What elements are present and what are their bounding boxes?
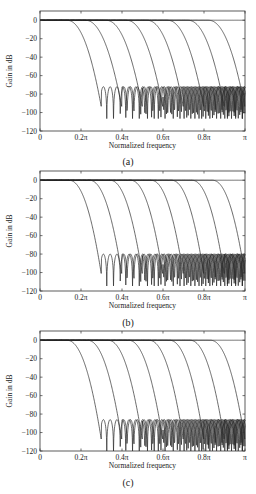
response-curves: [40, 20, 245, 118]
x-tick-label: π: [243, 293, 247, 302]
x-axis-label: Normalized frequency: [109, 141, 177, 150]
y-tick-label: −100: [22, 108, 38, 117]
y-tick-label: −80: [25, 250, 37, 259]
chart-panel-c: 00.2π0.4π0.6π0.8ππ0−20−40−60−80−100−120N…: [0, 320, 256, 494]
y-tick-label: −120: [22, 287, 38, 296]
chart-panel-a: 00.2π0.4π0.6π0.8ππ0−20−40−60−80−100−120N…: [0, 0, 256, 170]
x-tick-label: 0: [38, 133, 42, 142]
plot-c: 00.2π0.4π0.6π0.8ππ0−20−40−60−80−100−120N…: [0, 320, 256, 475]
y-tick-label: −120: [22, 447, 38, 456]
chart-panel-b: 00.2π0.4π0.6π0.8ππ0−20−40−60−80−100−120N…: [0, 160, 256, 330]
y-axis-label: Gain in dB: [5, 215, 14, 248]
plot-a: 00.2π0.4π0.6π0.8ππ0−20−40−60−80−100−120N…: [0, 0, 256, 155]
y-tick-label: −80: [25, 410, 37, 419]
y-tick-label: 0: [33, 336, 37, 345]
x-tick-label: π: [243, 453, 247, 462]
response-curves: [40, 180, 245, 286]
y-tick-label: −60: [25, 231, 37, 240]
panel-caption-c: (c): [0, 477, 256, 488]
x-tick-label: 0.2π: [74, 133, 87, 142]
x-tick-label: 0: [38, 453, 42, 462]
y-tick-label: −100: [22, 428, 38, 437]
y-tick-label: −40: [25, 53, 37, 62]
y-tick-label: −20: [25, 194, 37, 203]
x-tick-label: 0.2π: [74, 453, 87, 462]
x-tick-label: 0.8π: [197, 453, 210, 462]
y-tick-label: −40: [25, 373, 37, 382]
plot-b: 00.2π0.4π0.6π0.8ππ0−20−40−60−80−100−120N…: [0, 160, 256, 315]
y-tick-label: −20: [25, 354, 37, 363]
y-tick-label: −40: [25, 213, 37, 222]
y-tick-label: −120: [22, 127, 38, 136]
y-tick-label: −80: [25, 90, 37, 99]
response-curves: [40, 340, 245, 451]
x-axis-label: Normalized frequency: [109, 301, 177, 310]
y-tick-label: 0: [33, 16, 37, 25]
x-tick-label: 0.8π: [197, 293, 210, 302]
y-tick-label: −20: [25, 34, 37, 43]
y-tick-label: −60: [25, 71, 37, 80]
x-tick-label: π: [243, 133, 247, 142]
y-axis-label: Gain in dB: [5, 55, 14, 88]
x-tick-label: 0.2π: [74, 293, 87, 302]
x-axis-label: Normalized frequency: [109, 461, 177, 470]
y-tick-label: 0: [33, 176, 37, 185]
y-tick-label: −60: [25, 391, 37, 400]
y-tick-label: −100: [22, 268, 38, 277]
x-tick-label: 0.8π: [197, 133, 210, 142]
x-tick-label: 0: [38, 293, 42, 302]
y-axis-label: Gain in dB: [5, 375, 14, 408]
